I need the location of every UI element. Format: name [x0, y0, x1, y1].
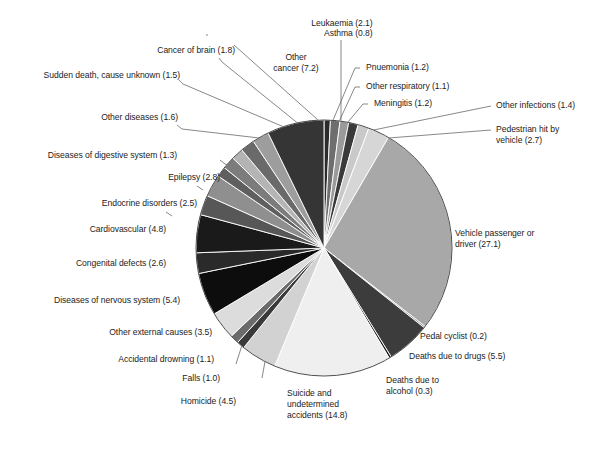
label-deaths-alcohol: Deaths due to alcohol (0.3) — [386, 375, 496, 397]
label-suicide: Suicide and undetermined accidents (14.8… — [287, 388, 387, 422]
label-accidental-drowning: Accidental drowning (1.1) — [80, 354, 214, 365]
label-nervous-system: Diseases of nervous system (5.4) — [20, 295, 180, 306]
label-falls: Falls (1.0) — [120, 373, 220, 384]
label-pedestrian: Pedestrian hit by vehicle (2.7) — [496, 124, 592, 146]
label-other-infections: Other infections (1.4) — [496, 100, 600, 111]
pie-slices — [196, 120, 452, 376]
label-pedal-cyclist: Pedal cyclist (0.2) — [420, 331, 560, 342]
label-cancer-of-brain: Cancer of brain (1.8) — [85, 45, 235, 56]
label-vehicle-passenger: Vehicle passenger or driver (27.1) — [455, 228, 583, 250]
label-congenital-defects: Congenital defects (2.6) — [40, 258, 166, 269]
label-pnuemonia: Pnuemonia (1.2) — [366, 62, 496, 73]
label-digestive-system: Diseases of digestive system (1.3) — [25, 150, 177, 161]
label-other-external: Other external causes (3.5) — [70, 327, 212, 338]
label-epilepsy: Epilepsy (2.8) — [100, 172, 220, 183]
label-meningitis: Meningitis (1.2) — [374, 98, 494, 109]
label-asthma: Asthma (0.8) — [324, 28, 444, 39]
label-deaths-drugs: Deaths due to drugs (5.5) — [409, 351, 569, 362]
label-other-respiratory: Other respiratory (1.1) — [366, 81, 506, 92]
label-other-diseases: Other diseases (1.6) — [50, 112, 178, 123]
label-sudden-death: Sudden death, cause unknown (1.5) — [10, 70, 180, 81]
label-homicide: Homicide (4.5) — [120, 396, 236, 407]
pie-chart-figure: Leukaemia (2.1) Cancer of brain (1.8) Su… — [0, 0, 600, 450]
label-other-cancer: Other cancer (7.2) — [258, 52, 334, 74]
label-endocrine-disorders: Endocrine disorders (2.5) — [60, 198, 197, 209]
label-cardiovascular: Cardiovascular (4.8) — [60, 224, 166, 235]
